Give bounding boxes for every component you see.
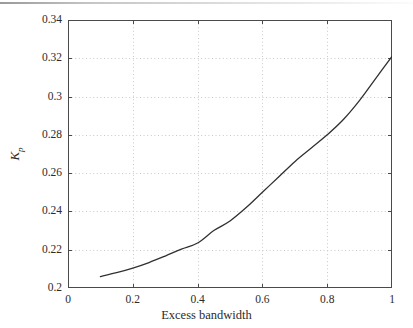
y-tick-label: 0.24 — [24, 206, 62, 218]
x-tick-label: 0.8 — [320, 294, 334, 306]
x-tick-label: 0.6 — [255, 294, 269, 306]
figure-container: Kp Excess bandwidth 00.20.40.60.810.20.2… — [0, 0, 413, 328]
y-tick-label: 0.26 — [24, 167, 62, 179]
data-series-line — [100, 56, 392, 276]
x-tick-label: 1 — [389, 294, 395, 306]
tick-marks — [68, 20, 392, 288]
x-axis-title: Excess bandwidth — [0, 308, 413, 323]
gridlines — [68, 20, 392, 288]
y-axis-title: Kp — [7, 147, 25, 160]
plot-frame — [69, 21, 392, 288]
y-tick-label: 0.32 — [24, 53, 62, 65]
plot-svg — [68, 20, 392, 288]
y-tick-label: 0.34 — [24, 14, 62, 26]
x-tick-label: 0 — [65, 294, 71, 306]
y-axis-title-subscript: p — [15, 147, 25, 152]
y-tick-label: 0.28 — [24, 129, 62, 141]
x-tick-label: 0.2 — [126, 294, 140, 306]
plot-area — [68, 20, 392, 288]
y-tick-label: 0.2 — [24, 282, 62, 294]
y-tick-label: 0.3 — [24, 91, 62, 103]
y-axis-title-base: K — [7, 152, 22, 161]
y-tick-label: 0.22 — [24, 244, 62, 256]
x-tick-label: 0.4 — [190, 294, 204, 306]
scan-artifact-line — [0, 2, 413, 4]
